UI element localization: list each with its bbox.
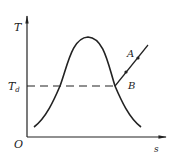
point-a-label: A xyxy=(126,48,134,59)
saturation-dome-curve xyxy=(34,37,141,127)
td-label: Td xyxy=(8,80,20,94)
td-label-subscript: d xyxy=(15,86,20,94)
y-axis-label: T xyxy=(14,21,23,34)
point-a-marker xyxy=(136,56,139,59)
origin-label: O xyxy=(14,138,23,151)
ts-diagram: T O s Td A B xyxy=(0,0,175,166)
point-b-label: B xyxy=(127,80,135,91)
point-b-marker xyxy=(124,70,127,73)
x-axis-label: s xyxy=(154,144,159,154)
